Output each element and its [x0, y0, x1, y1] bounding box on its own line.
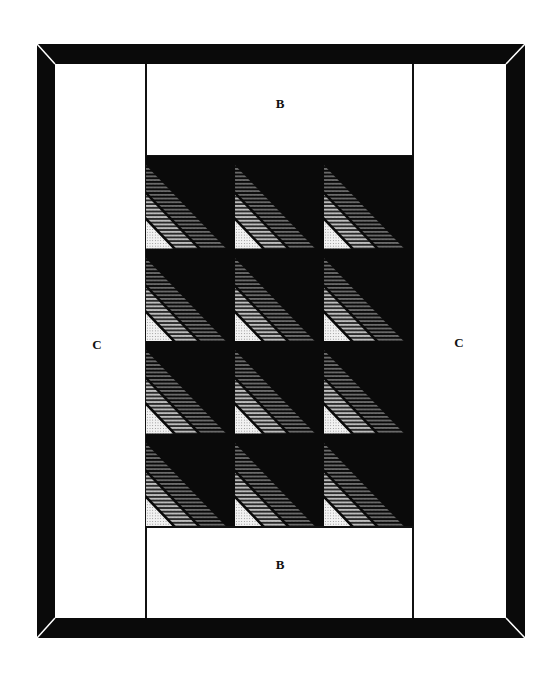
quilt-block [146, 156, 235, 249]
right-border-label: C [454, 335, 463, 351]
top-border-label: B [276, 96, 285, 112]
quilt-block [146, 249, 235, 342]
quilt-block [324, 249, 413, 342]
quilt-block [235, 156, 324, 249]
quilt-block [235, 341, 324, 434]
quilt-block [146, 341, 235, 434]
bottom-border-label: B [276, 557, 285, 573]
quilt-block [235, 249, 324, 342]
bottom-b-border-line [146, 526, 413, 528]
quilt-block [324, 434, 413, 527]
quilt-block [146, 434, 235, 527]
quilt-block [324, 341, 413, 434]
left-border-label: C [92, 337, 101, 353]
quilt-center [146, 156, 413, 526]
quilt-block [235, 434, 324, 527]
quilt-block [324, 156, 413, 249]
